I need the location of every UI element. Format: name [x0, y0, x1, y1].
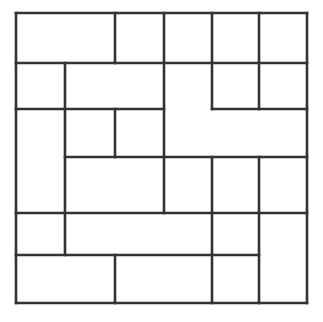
tile-8 [164, 63, 212, 157]
tile-1 [16, 13, 115, 63]
tile-12 [65, 109, 115, 157]
tile-18 [259, 157, 307, 213]
tile-4 [212, 13, 259, 63]
tile-17 [212, 157, 259, 213]
tile-24 [115, 255, 164, 303]
tile-14 [212, 109, 259, 157]
tile-21 [212, 213, 259, 255]
tile-23 [16, 255, 115, 303]
puzzle-diagram [0, 0, 323, 322]
tile-22 [259, 213, 307, 303]
tile-19 [16, 213, 65, 255]
tile-16 [65, 157, 212, 213]
tile-2 [115, 13, 164, 63]
tile-13 [115, 109, 164, 157]
tile-9 [212, 63, 259, 109]
tile-10 [259, 63, 307, 109]
tile-25 [164, 255, 212, 303]
tile-6 [16, 63, 65, 109]
tile-26 [212, 255, 259, 303]
partition-grid-svg [0, 0, 323, 322]
tile-3 [164, 13, 212, 63]
tile-15 [259, 109, 307, 157]
tile-20 [65, 213, 212, 255]
tile-5 [259, 13, 307, 63]
tile-11 [16, 109, 65, 213]
tile-7 [65, 63, 164, 109]
